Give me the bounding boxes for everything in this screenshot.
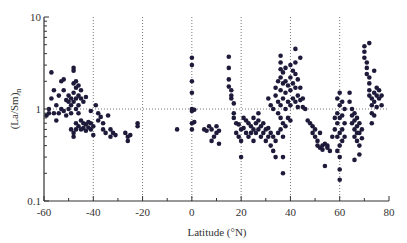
data-point: [268, 103, 273, 108]
data-point: [337, 91, 342, 96]
data-point: [232, 101, 237, 106]
data-point: [54, 118, 59, 123]
data-point: [296, 105, 301, 110]
data-point: [273, 86, 278, 91]
data-point: [278, 103, 283, 108]
data-point: [352, 158, 357, 163]
data-point: [57, 93, 62, 98]
data-point: [66, 107, 71, 112]
data-point: [76, 83, 81, 88]
data-point: [347, 99, 352, 104]
data-points: [44, 41, 384, 182]
data-point: [236, 122, 241, 127]
data-point: [108, 134, 113, 139]
data-point: [372, 113, 377, 118]
data-point: [352, 111, 357, 116]
data-point: [217, 129, 222, 134]
data-point: [74, 107, 79, 112]
data-point: [283, 124, 288, 129]
data-point: [47, 111, 52, 116]
data-point: [293, 72, 298, 77]
data-point: [190, 91, 195, 96]
data-point: [333, 127, 338, 132]
data-point: [190, 127, 195, 132]
y-tick-label: 0.1: [27, 195, 41, 207]
data-point: [209, 127, 214, 132]
data-point: [69, 111, 74, 116]
data-point: [227, 66, 232, 71]
data-point: [315, 139, 320, 144]
data-point: [293, 86, 298, 91]
data-point: [340, 127, 345, 132]
data-point: [291, 81, 296, 86]
data-point: [71, 91, 76, 96]
data-point: [57, 111, 62, 116]
data-point: [79, 88, 84, 93]
data-point: [61, 77, 66, 82]
data-point: [365, 60, 370, 65]
data-point: [286, 83, 291, 88]
data-point: [335, 121, 340, 126]
x-tick-label: -60: [37, 206, 52, 218]
data-point: [271, 134, 276, 139]
data-point: [94, 103, 99, 108]
data-point: [303, 107, 308, 112]
data-point: [357, 143, 362, 148]
data-point: [54, 103, 59, 108]
data-point: [281, 171, 286, 176]
data-point: [212, 134, 217, 139]
data-point: [74, 79, 79, 84]
data-point: [313, 127, 318, 132]
data-point: [278, 88, 283, 93]
data-point: [367, 41, 372, 46]
data-point: [288, 63, 293, 68]
data-point: [101, 121, 106, 126]
data-point: [273, 93, 278, 98]
data-point: [367, 81, 372, 86]
data-point: [76, 111, 81, 116]
data-point: [377, 88, 382, 93]
tick-labels: -60-40-200204060800.1110: [27, 11, 395, 218]
data-point: [293, 47, 298, 52]
y-tick-label: 10: [30, 11, 42, 23]
data-point: [293, 60, 298, 65]
data-point: [266, 96, 271, 101]
data-point: [268, 131, 273, 136]
data-point: [106, 113, 111, 118]
data-point: [91, 124, 96, 129]
data-point: [365, 66, 370, 71]
data-point: [64, 113, 69, 118]
data-point: [256, 118, 261, 123]
y-tick-label: 1: [36, 103, 42, 115]
data-point: [190, 56, 195, 61]
data-point: [217, 141, 222, 146]
data-point: [123, 131, 128, 136]
data-point: [273, 155, 278, 160]
data-point: [71, 69, 76, 74]
data-point: [281, 96, 286, 101]
data-point: [209, 139, 214, 144]
data-point: [259, 134, 264, 139]
data-point: [261, 121, 266, 126]
data-point: [89, 109, 94, 114]
data-point: [379, 103, 384, 108]
data-point: [76, 103, 81, 108]
data-point: [335, 111, 340, 116]
data-point: [335, 96, 340, 101]
data-point: [128, 133, 133, 138]
data-point: [278, 116, 283, 121]
data-point: [342, 134, 347, 139]
data-point: [281, 70, 286, 75]
data-point: [362, 49, 367, 54]
data-point: [244, 131, 249, 136]
data-point: [81, 99, 86, 104]
data-point: [283, 91, 288, 96]
data-point: [175, 127, 180, 132]
data-point: [318, 131, 323, 136]
x-tick-label: 20: [236, 206, 248, 218]
data-point: [276, 111, 281, 116]
data-point: [283, 107, 288, 112]
data-point: [214, 124, 219, 129]
data-point: [278, 127, 283, 132]
data-point: [352, 134, 357, 139]
